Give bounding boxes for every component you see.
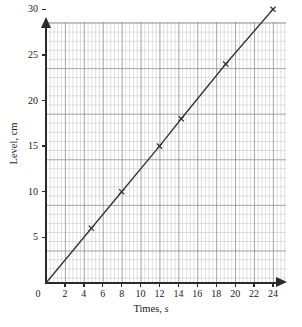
x-tick-label: 22 [249,289,259,299]
x-tick [197,283,198,287]
x-tick [253,283,254,287]
x-axis-title: Times, s [0,303,302,314]
x-tick-label: 8 [119,289,124,299]
x-tick [83,283,84,287]
y-tick-label: 30 [28,4,38,14]
x-tick-label: 0 [36,289,41,299]
y-tick [42,54,46,55]
y-tick-label: 5 [33,232,38,242]
x-tick-label: 12 [155,289,165,299]
x-tick-label: 10 [136,289,146,299]
y-axis-arrow-icon [41,17,51,28]
x-tick-label: 16 [192,289,202,299]
y-tick-label: 25 [28,50,38,60]
y-tick-label: 20 [28,96,38,106]
y-tick [42,237,46,238]
x-tick [272,283,273,287]
y-tick [42,145,46,146]
x-tick-label: 4 [81,289,86,299]
x-tick [140,283,141,287]
x-tick-label: 2 [62,289,67,299]
y-tick [42,100,46,101]
plot-area [46,22,286,283]
x-axis-title-unit: s [165,303,169,314]
x-tick [159,283,160,287]
x-tick-label: 14 [173,289,183,299]
x-axis-title-text: Times, [133,303,162,314]
x-tick-label: 24 [268,289,278,299]
y-tick [42,191,46,192]
y-tick [42,9,46,10]
x-axis-arrow-icon [276,277,287,287]
x-tick [235,283,236,287]
chart-container: 024681012141618202224 51015202530 Times,… [0,0,302,327]
x-tick [121,283,122,287]
y-tick-label: 15 [28,141,38,151]
y-axis-title: Level, cm [8,104,19,184]
data-point-marker [270,7,275,12]
minor-gridlines [46,22,286,283]
x-tick-label: 6 [100,289,105,299]
x-tick-label: 20 [230,289,240,299]
y-axis-line [45,26,47,284]
x-tick-label: 18 [211,289,221,299]
x-tick [178,283,179,287]
x-axis-line [45,282,278,284]
x-tick [216,283,217,287]
y-tick-label: 10 [28,187,38,197]
x-tick [102,283,103,287]
x-tick [64,283,65,287]
